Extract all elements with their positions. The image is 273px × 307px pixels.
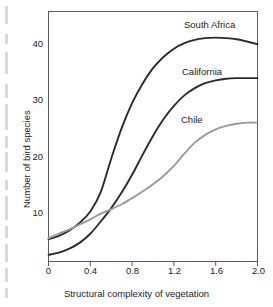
x-tick-label-0-4: 0.4	[80, 265, 101, 276]
bird-species-chart-figure: 40 30 20 10 0 0.4 0.8 1.2 1.6 2.0 South …	[0, 0, 273, 307]
series-label-california: California	[182, 66, 222, 77]
y-tick-label-10: 10	[16, 207, 43, 218]
y-tick-label-40: 40	[16, 38, 43, 49]
x-tick-label-0-8: 0.8	[122, 265, 143, 276]
x-tick-label-2-0: 2.0	[248, 265, 269, 276]
x-tick-label-1-6: 1.6	[206, 265, 227, 276]
x-tick-label-0: 0	[38, 265, 59, 276]
x-axis-title: Structural complexity of vegetation	[0, 288, 273, 299]
series-label-chile: Chile	[181, 114, 203, 125]
y-tick-label-30: 30	[16, 94, 43, 105]
series-label-south-africa: South Africa	[184, 19, 235, 30]
y-axis-title: Number of bird species	[21, 110, 32, 208]
x-tick-label-1-2: 1.2	[164, 265, 185, 276]
